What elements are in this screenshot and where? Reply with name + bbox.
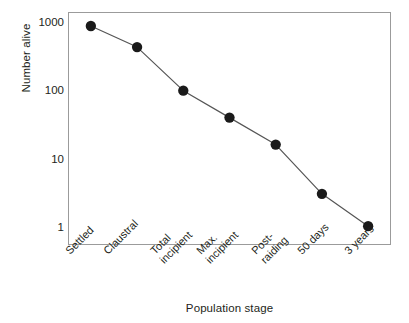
plot-area: [68, 12, 391, 245]
y-tick-label: 1000: [18, 16, 64, 28]
y-tick-label: 1: [18, 221, 64, 233]
x-axis-tick-labels: SettledClaustralTotalincipientMax.incipi…: [68, 246, 391, 304]
data-point-marker: [271, 139, 281, 149]
data-series-line: [69, 13, 390, 244]
x-axis-title: Population stage: [68, 302, 391, 314]
y-tick-label: 10: [18, 153, 64, 165]
figure-chart-number-alive-by-population-stage: Number alive 1000100101 SettledClaustral…: [0, 0, 409, 323]
y-tick-label: 100: [18, 84, 64, 96]
data-point-marker: [86, 21, 96, 31]
data-point-marker: [178, 86, 188, 96]
data-point-marker: [317, 189, 327, 199]
y-axis-tick-labels: 1000100101: [14, 12, 64, 245]
data-point-marker: [132, 42, 142, 52]
data-point-marker: [224, 112, 234, 122]
